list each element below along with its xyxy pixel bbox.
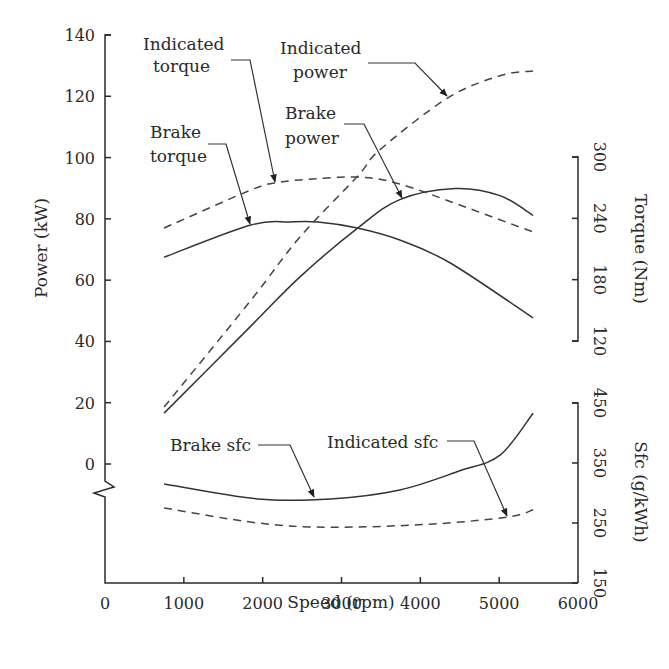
sfc-axis-title: Sfc (g/kWh)	[631, 441, 651, 542]
leader-indicated-power	[368, 63, 447, 96]
x-tick-label: 4000	[400, 594, 441, 613]
engine-performance-chart: 0100020003000400050006000020406080100120…	[0, 0, 669, 669]
annotation-brake-torque: Brake torque	[150, 122, 207, 166]
power-tick-label: 80	[75, 210, 95, 229]
torque-axis-title: Torque (Nm)	[631, 194, 651, 304]
x-tick-label: 2000	[242, 594, 283, 613]
torque-axis-line	[572, 157, 578, 341]
annotation-indicated-power: Indicated power	[280, 38, 367, 82]
x-axis-title: Speed (rpm)	[287, 592, 394, 612]
annotation-indicated-sfc: Indicated sfc	[327, 432, 438, 452]
power-tick-label: 20	[75, 394, 95, 413]
curve-brake-sfc	[164, 413, 533, 500]
x-tick-label: 5000	[479, 594, 520, 613]
leader-brake-torque	[208, 144, 250, 224]
leader-indicated-sfc	[447, 441, 507, 516]
annotations: Indicated torque Indicated power Brake t…	[143, 34, 507, 516]
power-axis-title: Power (kW)	[31, 198, 51, 298]
leader-brake-sfc	[258, 445, 314, 497]
sfc-axis-line	[572, 403, 578, 583]
torque-tick-label: 300	[590, 142, 609, 173]
power-tick-label: 0	[85, 455, 95, 474]
annotation-brake-sfc: Brake sfc	[170, 435, 251, 455]
power-tick-label: 40	[75, 332, 95, 351]
sfc-tick-label: 350	[590, 448, 609, 479]
x-tick-label: 0	[100, 594, 110, 613]
torque-tick-label: 180	[590, 264, 609, 295]
sfc-tick-label: 250	[590, 508, 609, 539]
annotation-brake-power: Brake power	[285, 103, 342, 148]
annotation-indicated-torque: Indicated torque	[143, 34, 230, 76]
torque-tick-label: 120	[590, 326, 609, 357]
sfc-tick-label: 450	[590, 388, 609, 419]
leader-indicated-torque	[231, 60, 275, 182]
torque-tick-label: 240	[590, 203, 609, 234]
sfc-tick-label: 150	[590, 568, 609, 599]
x-tick-label: 1000	[163, 594, 204, 613]
data-curves	[164, 71, 533, 527]
power-tick-label: 140	[64, 26, 95, 45]
curve-brake-power	[164, 188, 533, 413]
curve-indicated-torque	[164, 177, 533, 232]
power-tick-label: 100	[64, 149, 95, 168]
leader-brake-power	[344, 124, 402, 198]
power-tick-label: 60	[75, 271, 95, 290]
curve-indicated-sfc	[164, 508, 533, 527]
power-tick-label: 120	[64, 87, 95, 106]
